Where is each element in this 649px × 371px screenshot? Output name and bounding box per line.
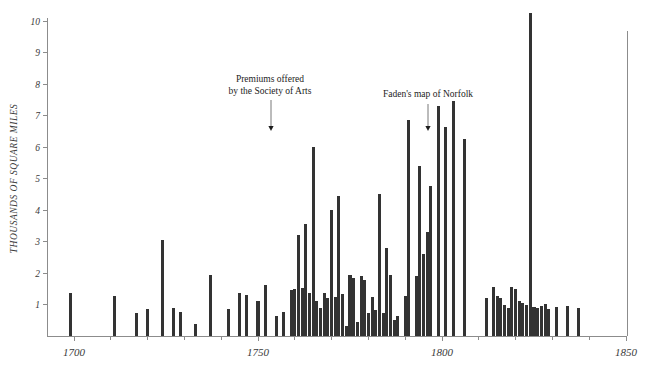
bar bbox=[69, 293, 72, 336]
bar bbox=[547, 309, 550, 336]
bar bbox=[389, 275, 392, 336]
bar bbox=[348, 275, 351, 336]
bar bbox=[378, 194, 381, 336]
bar bbox=[555, 307, 558, 336]
y-tick-label-9: 9 bbox=[35, 48, 40, 58]
bar bbox=[256, 301, 259, 336]
bar bbox=[444, 127, 447, 336]
bar bbox=[360, 276, 363, 336]
y-tick-label-6: 6 bbox=[35, 143, 40, 153]
bar bbox=[161, 240, 164, 336]
bar bbox=[293, 289, 296, 336]
bar bbox=[323, 293, 326, 336]
bar bbox=[407, 120, 410, 336]
y-axis-title: THOUSANDS OF SQUARE MILES bbox=[9, 104, 19, 253]
faden-annotation-arrow-head bbox=[425, 126, 430, 131]
bar bbox=[532, 307, 535, 336]
y-tick-label-3: 3 bbox=[34, 237, 40, 247]
faden-annotation-line-0: Faden's map of Norfolk bbox=[383, 89, 473, 99]
x-tick-label-1700: 1700 bbox=[63, 346, 86, 358]
bar bbox=[334, 297, 337, 336]
x-tick-label-1800: 1800 bbox=[431, 346, 454, 358]
bar bbox=[371, 297, 374, 336]
bar bbox=[536, 308, 539, 336]
bar bbox=[507, 308, 510, 336]
bar bbox=[146, 309, 149, 336]
bar bbox=[282, 312, 285, 336]
premiums-annotation-arrow-head bbox=[268, 126, 273, 131]
bar bbox=[308, 293, 311, 336]
bar bbox=[227, 309, 230, 336]
bar bbox=[337, 196, 340, 336]
bar bbox=[301, 288, 304, 336]
bar bbox=[367, 313, 370, 336]
bar bbox=[499, 298, 502, 336]
y-tick-label-2: 2 bbox=[35, 269, 40, 279]
bar bbox=[352, 278, 355, 336]
bar bbox=[518, 301, 521, 336]
premiums-annotation-line-0: Premiums offered bbox=[236, 74, 304, 84]
bar bbox=[492, 287, 495, 336]
premiums-annotation-line-1: by the Society of Arts bbox=[229, 86, 312, 96]
bar bbox=[422, 254, 425, 336]
bar bbox=[510, 287, 513, 336]
bar bbox=[521, 303, 524, 336]
bar bbox=[330, 210, 333, 336]
y-tick-label-4: 4 bbox=[35, 206, 40, 216]
y-tick-label-1: 1 bbox=[35, 300, 40, 310]
bar bbox=[135, 313, 138, 336]
y-tick-label-10: 10 bbox=[31, 17, 41, 27]
bar bbox=[418, 166, 421, 336]
bar bbox=[485, 298, 488, 336]
chart-page: 12345678910THOUSANDS OF SQUARE MILES1700… bbox=[0, 0, 649, 371]
bar bbox=[374, 310, 377, 336]
y-tick-label-5: 5 bbox=[35, 174, 40, 184]
bar bbox=[341, 294, 344, 336]
bar bbox=[566, 306, 569, 336]
bar bbox=[540, 306, 543, 336]
bar bbox=[529, 13, 532, 336]
bar bbox=[463, 139, 466, 336]
chart-canvas: 12345678910THOUSANDS OF SQUARE MILES1700… bbox=[0, 0, 649, 371]
bar bbox=[290, 290, 293, 336]
x-tick-label-1850: 1850 bbox=[615, 346, 638, 358]
bar bbox=[363, 280, 366, 336]
bar bbox=[544, 304, 547, 336]
bar bbox=[382, 313, 385, 336]
bar bbox=[577, 308, 580, 336]
bar bbox=[209, 275, 212, 336]
bar bbox=[496, 296, 499, 336]
bar bbox=[437, 106, 440, 336]
bar bbox=[326, 298, 329, 336]
bar bbox=[415, 276, 418, 336]
bar bbox=[264, 285, 267, 336]
y-tick-label-8: 8 bbox=[35, 80, 40, 90]
bar-chart: 12345678910THOUSANDS OF SQUARE MILES1700… bbox=[0, 0, 649, 371]
bar bbox=[404, 296, 407, 336]
bar bbox=[345, 326, 348, 336]
bar bbox=[429, 186, 432, 336]
bar bbox=[194, 324, 197, 336]
y-tick-label-7: 7 bbox=[35, 111, 41, 121]
bar bbox=[312, 147, 315, 336]
bar bbox=[315, 301, 318, 336]
bar bbox=[304, 224, 307, 336]
x-tick-label-1750: 1750 bbox=[247, 346, 270, 358]
bar bbox=[426, 232, 429, 336]
bar bbox=[393, 320, 396, 336]
bar bbox=[356, 322, 359, 336]
bar bbox=[319, 308, 322, 336]
bar bbox=[514, 289, 517, 336]
bar bbox=[525, 305, 528, 336]
bar bbox=[113, 296, 116, 336]
bar bbox=[396, 316, 399, 336]
bar bbox=[452, 101, 455, 336]
bar bbox=[179, 312, 182, 336]
bar bbox=[275, 316, 278, 336]
bar bbox=[385, 248, 388, 336]
bar bbox=[503, 305, 506, 337]
bar bbox=[172, 308, 175, 336]
bar bbox=[297, 235, 300, 336]
bar bbox=[238, 293, 241, 336]
bar bbox=[245, 295, 248, 336]
